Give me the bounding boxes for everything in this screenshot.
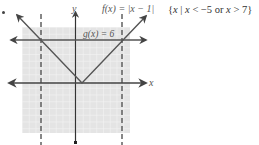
g-label: g(x) = 6 [83, 30, 114, 40]
y-axis-label: y [72, 4, 76, 14]
solution-set: {x | x < −5 or x > 7} [168, 4, 252, 15]
graph [0, 0, 259, 145]
answer-cond: < −5 or [190, 4, 226, 15]
f-label: f(x) = |x − 1| [102, 4, 154, 14]
answer-cond: > 7} [231, 4, 252, 15]
x-axis-label: x [149, 78, 153, 88]
answer-bar: | [178, 4, 185, 15]
